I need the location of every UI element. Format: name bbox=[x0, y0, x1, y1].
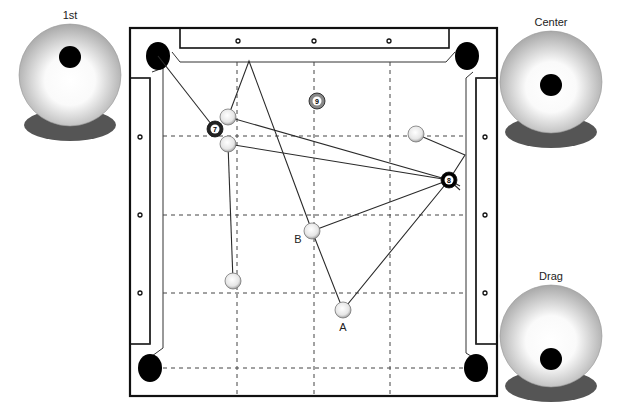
pocket-icon bbox=[464, 354, 488, 382]
top-cushion bbox=[172, 52, 455, 62]
cue-ball bbox=[304, 223, 320, 239]
diamond-marker bbox=[312, 39, 316, 43]
pool-table bbox=[130, 28, 497, 396]
label-a: A bbox=[339, 321, 347, 333]
ball-paths bbox=[158, 56, 465, 310]
cue-ball bbox=[335, 302, 351, 318]
cue-ball bbox=[225, 273, 241, 289]
diamond-marker bbox=[483, 213, 487, 217]
ball-number: 7 bbox=[213, 126, 217, 133]
ball-number: 9 bbox=[315, 98, 319, 105]
object-ball-7: 7 bbox=[207, 121, 223, 137]
cue-view-label: Center bbox=[534, 16, 567, 28]
cue-ball-large bbox=[500, 285, 602, 387]
ball-path-line bbox=[228, 144, 460, 190]
diamond-marker bbox=[138, 213, 142, 217]
diamond-marker bbox=[138, 135, 142, 139]
cue-tip-contact-icon bbox=[540, 74, 562, 96]
table-outer-frame bbox=[130, 28, 497, 396]
balls: 789 bbox=[207, 93, 457, 318]
right-rail bbox=[476, 78, 497, 344]
cue-ball bbox=[408, 126, 424, 142]
cue-tip-contact-icon bbox=[59, 46, 81, 68]
ball-path-line bbox=[158, 56, 215, 129]
cue-ball bbox=[220, 136, 236, 152]
cue-ball-large bbox=[19, 24, 121, 126]
pocket-icon bbox=[455, 42, 479, 70]
cue-view-center: Center bbox=[500, 16, 602, 148]
top-rail bbox=[180, 28, 449, 48]
diamond-marker bbox=[138, 291, 142, 295]
pocket-icon bbox=[138, 354, 162, 382]
cue-view-label: Drag bbox=[539, 270, 563, 282]
cue-view-label: 1st bbox=[63, 9, 78, 21]
cue-view-1st: 1st bbox=[19, 9, 121, 141]
left-cushion bbox=[152, 68, 163, 356]
label-b: B bbox=[294, 233, 301, 245]
right-cushion bbox=[466, 72, 474, 358]
cue-ball bbox=[220, 109, 236, 125]
ball-path-line bbox=[312, 180, 449, 310]
ball-number: 8 bbox=[447, 177, 451, 184]
position-labels: A B bbox=[294, 233, 347, 333]
cue-view-drag: Drag bbox=[500, 270, 602, 402]
cue-tip-views: 1stCenterDrag bbox=[19, 9, 602, 402]
object-ball-8: 8 bbox=[441, 172, 457, 188]
billiards-diagram: 1stCenterDrag 789 A B bbox=[0, 0, 623, 414]
object-ball-9: 9 bbox=[309, 93, 325, 109]
diamond-marker bbox=[236, 39, 240, 43]
left-rail bbox=[130, 78, 150, 344]
cue-tip-contact-icon bbox=[540, 348, 562, 370]
diamond-marker bbox=[483, 135, 487, 139]
ball-path-line bbox=[228, 144, 233, 281]
diamond-marker bbox=[483, 291, 487, 295]
diamond-marker bbox=[387, 39, 391, 43]
